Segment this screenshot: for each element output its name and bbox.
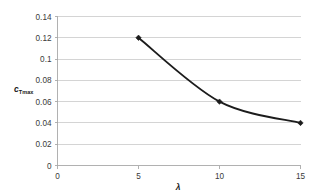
x-axis-title: λ — [175, 182, 181, 192]
y-axis-tick-label: 0.12 — [36, 34, 52, 43]
y-axis-title: cTmax — [14, 84, 34, 95]
y-axis-tick-label: 0 — [47, 162, 52, 171]
chart-container: 00.020.040.060.080.10.120.14 051015 cTma… — [0, 0, 315, 196]
y-axis-tick-label: 0.02 — [36, 140, 52, 149]
y-axis-tick-label: 0.06 — [36, 98, 52, 107]
x-axis-tick-label: 0 — [55, 172, 60, 181]
y-axis-tick-label: 0.08 — [36, 76, 52, 85]
x-axis-tick-label: 15 — [296, 172, 306, 181]
axis-lines — [55, 17, 301, 166]
x-axis-tick-label: 5 — [136, 172, 141, 181]
line-chart: 00.020.040.060.080.10.120.14 051015 cTma… — [0, 0, 315, 196]
data-point-marker — [298, 120, 303, 125]
gridlines — [58, 17, 301, 145]
y-axis-tick-label: 0.1 — [40, 55, 52, 64]
x-axis-tick-labels: 051015 — [55, 172, 305, 181]
y-axis-tick-labels: 00.020.040.060.080.10.120.14 — [36, 13, 52, 171]
y-axis-tick-label: 0.14 — [36, 13, 52, 22]
x-axis-tick-marks — [58, 166, 301, 170]
y-axis-tick-label: 0.04 — [36, 119, 52, 128]
x-axis-tick-label: 10 — [215, 172, 225, 181]
